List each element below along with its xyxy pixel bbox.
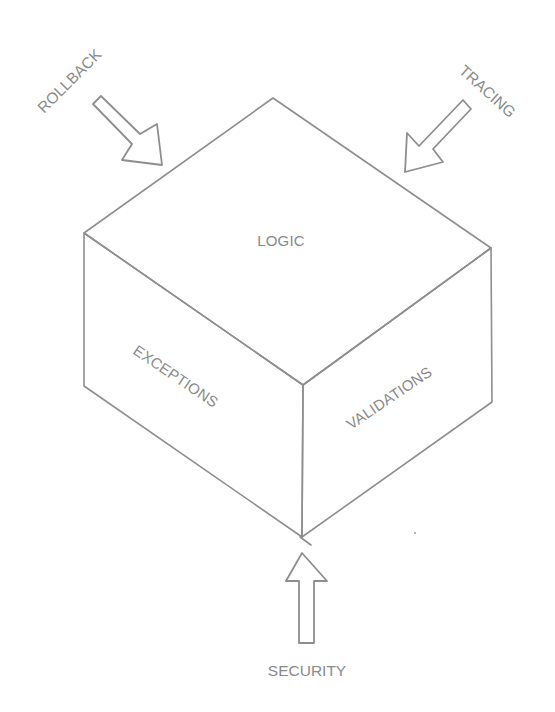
rollback-arrow-icon [93,96,162,165]
tracing-arrow-icon [405,100,471,172]
sketch-dot [414,532,416,534]
security-arrow-icon [286,553,327,643]
face-label-validations: VALIDATIONS [343,363,435,433]
cube-diagram: LOGIC EXCEPTIONS VALIDATIONS ROLLBACK TR… [0,0,555,712]
face-label-logic: LOGIC [257,232,305,249]
face-label-exceptions: EXCEPTIONS [130,341,221,410]
sketch-mark [300,537,311,545]
security-label: SECURITY [268,662,346,679]
